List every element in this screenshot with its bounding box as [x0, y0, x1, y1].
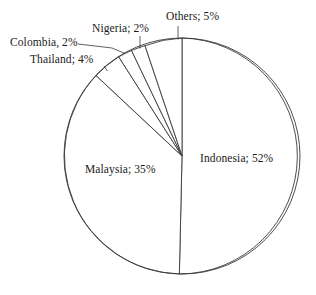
pie-label-thailand: Thailand; 4%: [30, 53, 93, 66]
pie-label-colombia: Colombia, 2%: [10, 36, 78, 49]
pie-label-indonesia: Indonesia; 52%: [200, 152, 273, 165]
pie-label-nigeria: Nigeria; 2%: [92, 22, 149, 35]
pie-label-others: Others; 5%: [166, 10, 219, 23]
pie-chart: Others; 5% Nigeria; 2% Colombia, 2% Thai…: [0, 0, 316, 295]
pie-label-malaysia: Malaysia; 35%: [85, 163, 156, 176]
